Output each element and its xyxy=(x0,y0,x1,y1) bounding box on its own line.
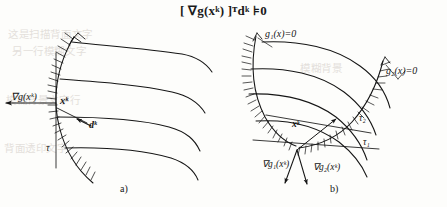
panel-b-point-label: xᵏ xyxy=(292,120,299,130)
panel-a-level-curves xyxy=(58,42,212,180)
panel-b-caption: b) xyxy=(330,184,338,194)
panel-b-constraint1-curve xyxy=(253,36,296,146)
panel-b-constraint1-hatching xyxy=(242,36,292,150)
panel-b-level-curves xyxy=(249,42,390,177)
panel-a-tangent-label: τ xyxy=(46,143,50,153)
panel-b-gradient2-arrow xyxy=(297,150,307,184)
panel-b-constraint2-label: g₂(x)=0 xyxy=(386,66,417,76)
panel-a-direction-label: dᵏ xyxy=(89,120,97,130)
panel-b-tangent1-label: τ₁ xyxy=(363,138,370,148)
panel-b-gradient1-label: ∇g₁(xᵏ) xyxy=(262,160,289,170)
figure-canvas: 这是扫描背面文字 另一行模糊文字 模糊背景 模糊背景文字行 背面透印文字 [ ∇… xyxy=(0,0,447,207)
panel-b-constraint1-label: g₁(x)=0 xyxy=(265,29,296,39)
panel-a-caption: a) xyxy=(120,184,128,194)
panel-b-tangent2-label: τ₂ xyxy=(359,114,366,124)
panel-a-point-label: xᵏ xyxy=(60,96,68,107)
panel-a-gradient-label: ∇g(xᵏ) xyxy=(11,92,37,102)
panel-a-hatching xyxy=(47,33,95,180)
panel-b-gradient2-label: ∇g₂(xᵏ) xyxy=(313,163,340,173)
